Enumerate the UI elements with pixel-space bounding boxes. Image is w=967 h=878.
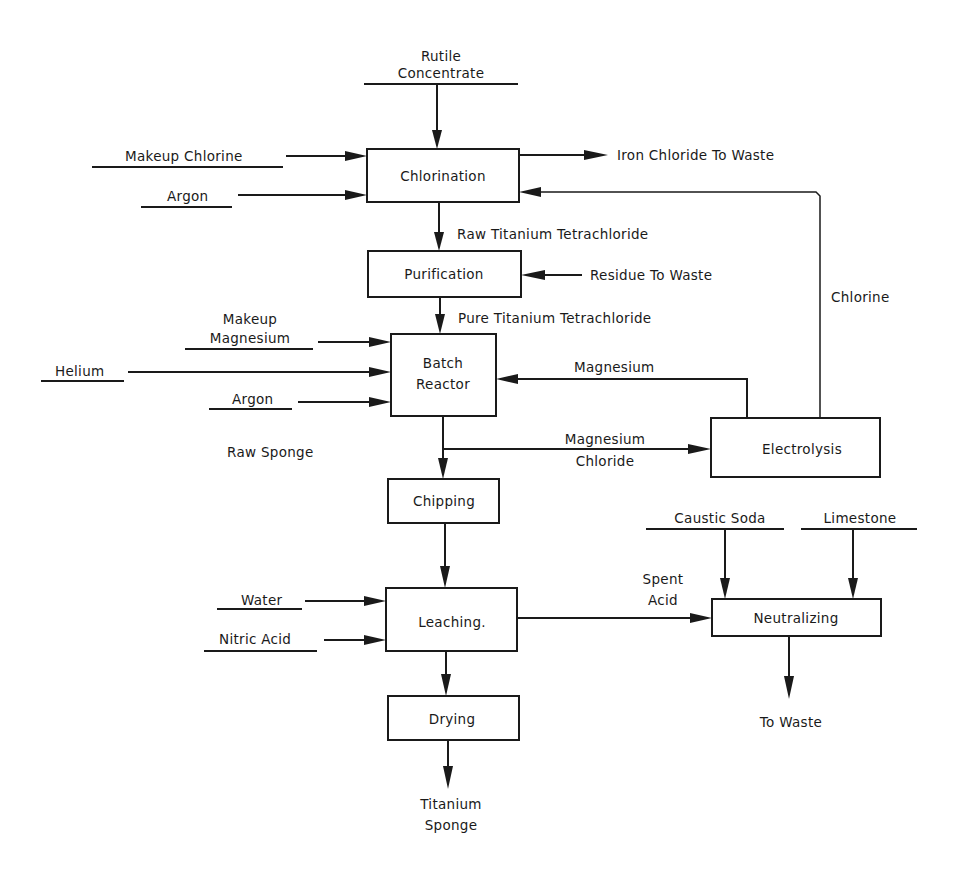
chlorine-recycle-label: Chlorine: [831, 289, 890, 305]
chlorination-label: Chlorination: [400, 168, 486, 184]
chipping-to-leaching-stream: [440, 523, 450, 588]
spent-acid-stream: Spent Acid: [517, 571, 712, 623]
makeup-magnesium-feed: Makeup Magnesium: [185, 311, 391, 349]
to-waste-stream: To Waste: [759, 636, 822, 730]
arrow-right-icon: [369, 397, 391, 407]
raw-sponge-label: Raw Sponge: [227, 444, 314, 460]
rutile-concentrate-feed: Rutile Concentrate: [364, 48, 518, 149]
arrow-down-icon: [720, 578, 730, 599]
titanium-sponge-product: Titanium Sponge: [419, 740, 482, 833]
process-electrolysis: Electrolysis: [711, 418, 880, 477]
batch-reactor-box: [391, 334, 496, 416]
mgcl2-label-line1: Magnesium: [565, 431, 646, 447]
arrow-down-icon: [438, 458, 448, 479]
arrow-down-icon: [443, 766, 453, 789]
process-leaching: Leaching.: [386, 588, 517, 651]
raw-ticl4-label: Raw Titanium Tetrachloride: [457, 226, 648, 242]
arrow-right-icon: [584, 150, 608, 160]
arrow-right-icon: [345, 151, 367, 161]
purification-label: Purification: [404, 266, 483, 282]
drying-label: Drying: [429, 711, 476, 727]
arrow-left-icon: [496, 374, 518, 384]
leaching-to-drying-stream: [441, 651, 451, 696]
helium-feed: Helium: [41, 363, 391, 381]
arrow-down-icon: [432, 130, 442, 149]
arrow-right-icon: [369, 337, 391, 347]
pure-ticl4-label: Pure Titanium Tetrachloride: [458, 310, 651, 326]
process-chipping: Chipping: [388, 479, 499, 523]
helium-label: Helium: [55, 363, 104, 379]
magnesium-chloride-stream: Magnesium Chloride: [443, 431, 711, 469]
titanium-sponge-process-flow-diagram: Rutile Concentrate Makeup Chlorine Argon…: [0, 0, 967, 878]
process-batch-reactor: Batch Reactor: [391, 334, 496, 416]
raw-ticl4-stream: Raw Titanium Tetrachloride: [434, 202, 648, 251]
iron-chloride-label: Iron Chloride To Waste: [617, 147, 774, 163]
iron-chloride-waste-stream: Iron Chloride To Waste: [519, 147, 774, 163]
pure-ticl4-stream: Pure Titanium Tetrachloride: [435, 297, 651, 334]
chipping-label: Chipping: [413, 493, 475, 509]
magnesium-recycle-line: [516, 379, 747, 418]
caustic-soda-label: Caustic Soda: [674, 510, 765, 526]
water-feed: Water: [217, 592, 386, 609]
magnesium-recycle-label: Magnesium: [574, 359, 655, 375]
arrow-right-icon: [688, 444, 711, 454]
product-label-line1: Titanium: [419, 796, 482, 812]
arrow-down-icon: [434, 232, 444, 251]
makeup-magnesium-label-line1: Makeup: [223, 311, 278, 327]
to-waste-label: To Waste: [759, 714, 822, 730]
spent-acid-label-line2: Acid: [648, 592, 678, 608]
water-label: Water: [241, 592, 283, 608]
argon-reactor-label: Argon: [232, 391, 273, 407]
arrow-right-icon: [369, 367, 391, 377]
arrow-down-icon: [435, 314, 445, 334]
electrolysis-label: Electrolysis: [762, 441, 842, 457]
process-neutralizing: Neutralizing: [712, 599, 881, 636]
leaching-label: Leaching.: [418, 614, 486, 630]
nitric-acid-label: Nitric Acid: [219, 631, 291, 647]
makeup-chlorine-feed: Makeup Chlorine: [92, 148, 367, 167]
batch-reactor-label-line1: Batch: [423, 355, 463, 371]
limestone-feed: Limestone: [801, 510, 917, 599]
arrow-right-icon: [364, 635, 386, 645]
arrow-down-icon: [784, 676, 794, 699]
arrow-right-icon: [690, 613, 712, 623]
spent-acid-label-line1: Spent: [643, 571, 684, 587]
chlorine-recycle-stream: Chlorine: [519, 187, 890, 418]
arrow-right-icon: [364, 596, 386, 606]
nitric-acid-feed: Nitric Acid: [204, 631, 386, 651]
arrow-right-icon: [345, 190, 367, 200]
product-label-line2: Sponge: [425, 817, 478, 833]
makeup-magnesium-label-line2: Magnesium: [210, 330, 291, 346]
limestone-label: Limestone: [824, 510, 897, 526]
residue-label: Residue To Waste: [590, 267, 712, 283]
arrow-left-icon: [519, 187, 541, 197]
arrow-down-icon: [848, 578, 858, 599]
batch-reactor-label-line2: Reactor: [416, 376, 470, 392]
process-drying: Drying: [388, 696, 519, 740]
argon-chlorination-feed: Argon: [141, 188, 367, 207]
argon-reactor-feed: Argon: [209, 391, 391, 409]
argon-chlorination-label: Argon: [167, 188, 208, 204]
rutile-label-line1: Rutile: [421, 48, 461, 64]
arrow-left-icon: [521, 270, 545, 280]
process-chlorination: Chlorination: [367, 149, 519, 202]
arrow-down-icon: [441, 674, 451, 696]
mgcl2-label-line2: Chloride: [576, 453, 635, 469]
makeup-chlorine-label: Makeup Chlorine: [125, 148, 243, 164]
raw-sponge-stream: Raw Sponge: [227, 416, 448, 479]
arrow-down-icon: [440, 566, 450, 588]
rutile-label-line2: Concentrate: [398, 65, 485, 81]
process-purification: Purification: [368, 251, 521, 297]
neutralizing-label: Neutralizing: [753, 610, 838, 626]
residue-waste-stream: Residue To Waste: [521, 267, 712, 283]
magnesium-recycle-stream: Magnesium: [496, 359, 747, 418]
